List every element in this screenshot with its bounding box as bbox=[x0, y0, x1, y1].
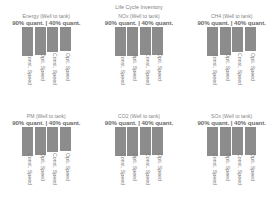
bar-label: Opti. Speed bbox=[65, 153, 71, 164]
plot-area: Const. Speed Opti. Speed Const. Speed Op… bbox=[0, 27, 93, 99]
bar bbox=[35, 127, 46, 155]
bar bbox=[152, 127, 163, 155]
bar-slot: Const. Speed bbox=[232, 27, 243, 99]
panel-header: CO2 (Well to tank) 90% quant. | 40% quan… bbox=[93, 113, 186, 127]
bar-label: Opti. Speed bbox=[225, 53, 231, 64]
bar-group: Const. Speed Opti. Speed Const. Speed Op… bbox=[207, 27, 256, 99]
bar bbox=[127, 27, 138, 56]
bar bbox=[35, 27, 46, 55]
plot-area: Const. Speed Opti. Speed Const. Speed Op… bbox=[93, 27, 186, 99]
bar-slot: Opti. Speed bbox=[245, 27, 256, 99]
bar bbox=[22, 127, 33, 156]
bar-label: Const. Speed bbox=[145, 153, 151, 164]
bar bbox=[245, 127, 256, 155]
panel-header: Energy (Well to tank) 90% quant. | 40% q… bbox=[0, 13, 93, 27]
bar-slot: Const. Speed bbox=[207, 27, 218, 99]
bar-label: Const. Speed bbox=[27, 153, 33, 164]
bar bbox=[140, 27, 151, 55]
bar-label: Const. Speed bbox=[52, 53, 58, 64]
bar-label: Opti. Speed bbox=[40, 53, 46, 64]
plot-area: Const. Speed Opti. Speed Const. Speed Op… bbox=[0, 127, 93, 199]
bar-slot: Const. Speed bbox=[22, 127, 33, 199]
bar-slot: Const. Speed bbox=[47, 27, 58, 99]
bar-slot: Opti. Speed bbox=[127, 27, 138, 99]
bar bbox=[245, 27, 256, 51]
bar bbox=[60, 127, 71, 151]
bar-slot: Const. Speed bbox=[115, 127, 126, 199]
bar-slot: Opti. Speed bbox=[127, 127, 138, 199]
bar-slot: Opti. Speed bbox=[220, 127, 231, 199]
bar-label: Const. Speed bbox=[145, 53, 151, 64]
bar-slot: Opti. Speed bbox=[60, 127, 71, 199]
chart-panel-co2: CO2 (Well to tank) 90% quant. | 40% quan… bbox=[93, 113, 186, 199]
bar bbox=[207, 127, 218, 156]
bar-slot: Const. Speed bbox=[232, 127, 243, 199]
bar-slot: Opti. Speed bbox=[245, 127, 256, 199]
bar-group: Const. Speed Opti. Speed Const. Speed Op… bbox=[22, 27, 71, 99]
panel-subtitle: 90% quant. | 40% quant. bbox=[0, 19, 93, 27]
bar bbox=[207, 27, 218, 56]
plot-area: Const. Speed Opti. Speed Const. Speed Op… bbox=[185, 27, 278, 99]
chart-panel-pm: PM (Well to tank) 90% quant. | 40% quant… bbox=[0, 113, 93, 199]
bar-slot: Opti. Speed bbox=[152, 27, 163, 99]
chart-panel-nox: NOx (Well to tank) 90% quant. | 40% quan… bbox=[93, 13, 186, 99]
plot-area: Const. Speed Opti. Speed Const. Speed Op… bbox=[93, 127, 186, 199]
panel-header: PM (Well to tank) 90% quant. | 40% quant… bbox=[0, 113, 93, 127]
bar-label: Const. Speed bbox=[27, 53, 33, 64]
bar-slot: Const. Speed bbox=[47, 127, 58, 199]
bar bbox=[127, 127, 138, 156]
bar bbox=[232, 27, 243, 52]
panel-grid: Energy (Well to tank) 90% quant. | 40% q… bbox=[0, 0, 278, 199]
bar-group: Const. Speed Opti. Speed Const. Speed Op… bbox=[115, 127, 164, 199]
panel-subtitle: 90% quant. | 40% quant. bbox=[185, 19, 278, 27]
bar-label: Opti. Speed bbox=[225, 153, 231, 164]
bar-slot: Const. Speed bbox=[115, 27, 126, 99]
bar-slot: Const. Speed bbox=[22, 27, 33, 99]
bar-label: Const. Speed bbox=[120, 153, 126, 164]
bar bbox=[22, 27, 33, 56]
bar-slot: Const. Speed bbox=[207, 127, 218, 199]
bar bbox=[232, 127, 243, 155]
bar-slot: Opti. Speed bbox=[35, 27, 46, 99]
bar bbox=[115, 27, 126, 56]
bar bbox=[60, 27, 71, 51]
panel-subtitle: 90% quant. | 40% quant. bbox=[0, 119, 93, 127]
bar-label: Const. Speed bbox=[237, 53, 243, 64]
panel-header: SOx (Well to tank) 90% quant. | 40% quan… bbox=[185, 113, 278, 127]
bar-slot: Const. Speed bbox=[140, 127, 151, 199]
panel-header: NOx (Well to tank) 90% quant. | 40% quan… bbox=[93, 13, 186, 27]
chart-panel-ch4: CH4 (Well to tank) 90% quant. | 40% quan… bbox=[185, 13, 278, 99]
panel-header: CH4 (Well to tank) 90% quant. | 40% quan… bbox=[185, 13, 278, 27]
bar-slot: Opti. Speed bbox=[220, 27, 231, 99]
bar-label: Const. Speed bbox=[52, 153, 58, 164]
bar bbox=[47, 127, 58, 152]
bar-label: Opti. Speed bbox=[65, 53, 71, 64]
bar-slot: Opti. Speed bbox=[35, 127, 46, 199]
bar bbox=[115, 127, 126, 156]
panel-subtitle: 90% quant. | 40% quant. bbox=[93, 19, 186, 27]
bar-label: Const. Speed bbox=[120, 53, 126, 64]
chart-panel-sox: SOx (Well to tank) 90% quant. | 40% quan… bbox=[185, 113, 278, 199]
plot-area: Const. Speed Opti. Speed Const. Speed Op… bbox=[185, 127, 278, 199]
bar-label: Const. Speed bbox=[237, 153, 243, 164]
bar-group: Const. Speed Opti. Speed Const. Speed Op… bbox=[115, 27, 164, 99]
bar-label: Opti. Speed bbox=[250, 53, 256, 64]
bar bbox=[47, 27, 58, 52]
bar-label: Const. Speed bbox=[212, 153, 218, 164]
bar-label: Opti. Speed bbox=[132, 153, 138, 164]
bar bbox=[220, 27, 231, 55]
bar-group: Const. Speed Opti. Speed Const. Speed Op… bbox=[207, 127, 256, 199]
bar-slot: Opti. Speed bbox=[60, 27, 71, 99]
bar-label: Opti. Speed bbox=[40, 153, 46, 164]
bar bbox=[140, 127, 151, 155]
panel-subtitle: 90% quant. | 40% quant. bbox=[185, 119, 278, 127]
bar-slot: Const. Speed bbox=[140, 27, 151, 99]
bar-label: Opti. Speed bbox=[250, 153, 256, 164]
bar-label: Opti. Speed bbox=[132, 53, 138, 64]
life-cycle-inventory-figure: Life Cycle Inventory Energy (Well to tan… bbox=[0, 0, 278, 199]
bar bbox=[152, 27, 163, 55]
panel-subtitle: 90% quant. | 40% quant. bbox=[93, 119, 186, 127]
bar-label: Const. Speed bbox=[212, 53, 218, 64]
chart-panel-energy: Energy (Well to tank) 90% quant. | 40% q… bbox=[0, 13, 93, 99]
bar-slot: Opti. Speed bbox=[152, 127, 163, 199]
